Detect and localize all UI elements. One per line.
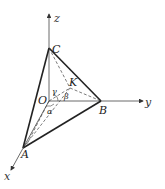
y-axis-label: y <box>144 96 152 109</box>
angle-beta-label: β <box>63 92 69 101</box>
z-axis-label: z <box>53 12 60 25</box>
dash-KB <box>70 88 101 101</box>
x-axis-label: x <box>4 170 11 183</box>
point-A-label: A <box>20 148 29 161</box>
point-B-label: B <box>98 104 107 117</box>
point-C-label: C <box>52 43 61 56</box>
angle-alpha-label: α <box>47 107 53 116</box>
angle-arc-alpha <box>47 104 54 106</box>
angle-gamma-label: γ <box>52 87 57 96</box>
tetrahedron-diagram: z y x C O K B A γ β α <box>0 0 165 189</box>
edge-AB <box>23 101 101 148</box>
point-K-label: K <box>68 76 78 89</box>
angle-arc-beta <box>57 97 58 101</box>
point-O-label: O <box>38 94 47 107</box>
